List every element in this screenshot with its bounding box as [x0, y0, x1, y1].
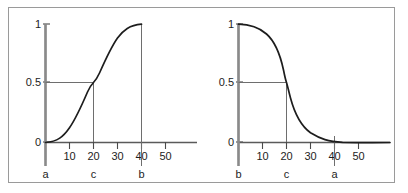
right-curve-z-shaped [239, 24, 391, 142]
left-xtick-label-10: 10 [63, 150, 75, 162]
figure-panel: 1 0.5 0 10 20 30 40 50 [8, 7, 395, 183]
chart-left-s-shaped: 1 0.5 0 10 20 30 40 50 [9, 8, 202, 182]
left-xtick-label-30: 30 [111, 150, 123, 162]
left-ytick-label-1: 1 [35, 18, 41, 30]
left-marker-label-b: b [138, 168, 144, 180]
right-ytick-label-0: 0 [228, 136, 234, 148]
chart-right-z-shaped: 1 0.5 0 10 20 30 40 50 [202, 8, 395, 182]
right-ytick-label-0point5: 0.5 [219, 76, 234, 88]
right-marker-label-b: b [235, 168, 241, 180]
left-marker-label-a: a [42, 168, 49, 180]
left-ytick-label-0: 0 [35, 136, 41, 148]
left-marker-label-c: c [91, 168, 97, 180]
right-marker-label-c: c [284, 168, 290, 180]
chart-left-svg: 1 0.5 0 10 20 30 40 50 [9, 8, 202, 182]
right-marker-label-a: a [331, 168, 338, 180]
left-xtick-label-50: 50 [159, 150, 171, 162]
right-ytick-label-1: 1 [228, 18, 234, 30]
chart-right-svg: 1 0.5 0 10 20 30 40 50 [202, 8, 395, 182]
left-ytick-label-0point5: 0.5 [26, 76, 41, 88]
right-xtick-label-30: 30 [304, 150, 316, 162]
left-xtick-label-20: 20 [87, 150, 99, 162]
right-xtick-label-10: 10 [256, 150, 268, 162]
right-xtick-label-50: 50 [352, 150, 364, 162]
right-xtick-label-20: 20 [280, 150, 292, 162]
